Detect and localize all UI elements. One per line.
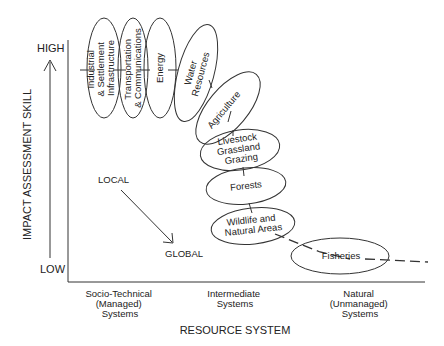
category-intermediate: Intermediate Systems: [207, 288, 262, 309]
svg-text:Forests: Forests: [230, 178, 263, 192]
svg-text:Agriculture: Agriculture: [205, 89, 243, 131]
sector-fisheries: Fisheries: [291, 238, 389, 274]
y-axis-title: IMPACT ASSESSMENT SKILL: [21, 89, 33, 240]
svg-text:Transportation & Communi: Transportation & Communications: [122, 28, 143, 108]
svg-text:Wildlife and Natural Are: Wildlife and Natural Areas: [223, 211, 283, 238]
svg-text:Water Resources: Water Resources: [179, 48, 211, 98]
global-label: GLOBAL: [165, 248, 203, 259]
svg-text:Fisheries: Fisheries: [322, 250, 361, 261]
svg-text:Livestock Grassland: Livestock Grassland Grazing: [215, 130, 265, 167]
sector-industrial: Industrial & Settlement Infrastructure: [85, 18, 121, 118]
local-label: LOCAL: [98, 174, 129, 185]
tick: [228, 111, 231, 122]
category-socio-technical: Socio-Technical (Managed) Systems: [85, 288, 154, 319]
x-axis-title: RESOURCE SYSTEM: [180, 324, 291, 336]
svg-text:Energy: Energy: [154, 53, 165, 83]
diagram-canvas: HIGH LOW IMPACT ASSESSMENT SKILL LOCAL G…: [0, 0, 444, 346]
sector-forests: Forests: [204, 164, 287, 208]
local-global-arrow-icon: [121, 190, 172, 242]
low-label: LOW: [40, 263, 66, 275]
category-natural: Natural (Unmanaged) Systems: [330, 288, 391, 319]
sector-energy: Energy: [144, 18, 176, 118]
trend-line-tail: [365, 259, 428, 262]
high-label: HIGH: [37, 42, 65, 54]
sector-wildlife: Wildlife and Natural Areas: [209, 204, 296, 249]
sector-livestock: Livestock Grassland Grazing: [198, 125, 283, 176]
svg-text:Industrial & Settlement: Industrial & Settlement Infrastructure: [85, 39, 116, 96]
